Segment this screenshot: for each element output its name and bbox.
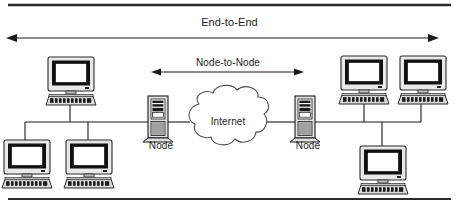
workstation-left-bottom-2 (64, 140, 114, 188)
node-left-label: Node (141, 140, 181, 151)
network-diagram: End-to-End Node-to-Node Internet Node No… (0, 0, 459, 204)
node-right-label: Node (288, 140, 328, 151)
node-to-node-arrow (151, 69, 304, 76)
workstation-left-bottom-1 (2, 140, 52, 188)
workstation-left-top (46, 57, 96, 105)
node-left-tower (143, 96, 173, 142)
bus-left (25, 105, 155, 140)
end-to-end-label: End-to-End (0, 16, 459, 28)
node-right-tower (290, 96, 320, 142)
diagram-canvas (0, 0, 459, 204)
end-to-end-arrow (6, 34, 439, 42)
workstation-right-top-1 (339, 56, 389, 104)
workstation-right-bottom (358, 146, 408, 194)
internet-label: Internet (185, 116, 271, 127)
node-to-node-label: Node-to-Node (152, 57, 304, 68)
workstation-right-top-2 (398, 56, 448, 104)
